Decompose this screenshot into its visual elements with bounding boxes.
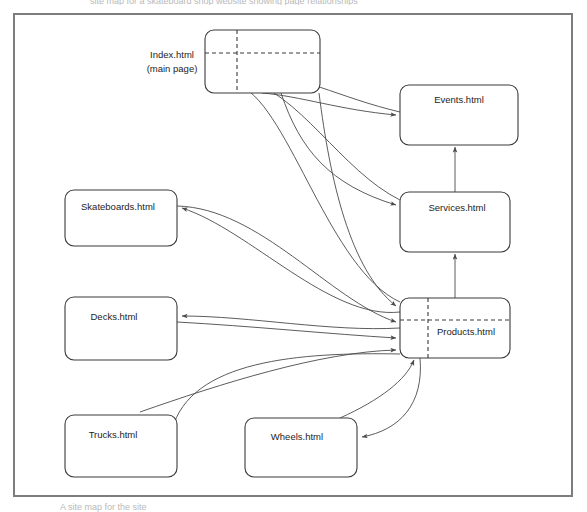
edge-services-to-index [241,78,400,200]
node-index-box[interactable] [205,30,320,93]
node-services-label: Services.html [428,202,485,213]
edge-products-to-skateboards [182,208,400,313]
edge-products-to-index [241,86,400,302]
node-skateboards-label: Skateboards.html [81,201,155,212]
node-skateboards[interactable]: Skateboards.html [65,190,177,246]
edge-products-to-wheels [362,358,420,437]
node-trucks-label: Trucks.html [89,429,138,440]
node-decks-label: Decks.html [91,311,138,322]
edge-products-to-decks [182,316,400,329]
node-index-label: Index.html [150,49,194,60]
node-events-label: Events.html [434,94,484,105]
node-events[interactable]: Events.html [400,85,518,145]
edge-trucks-to-products [140,350,396,412]
node-trucks[interactable]: Trucks.html [65,415,177,477]
node-index-sublabel: (main page) [147,63,198,74]
edge-decks-to-products [177,322,396,338]
site-map-diagram: Index.html (main page) Events.html Servi… [0,0,587,512]
node-services[interactable]: Services.html [400,192,510,252]
cropped-caption-text-bottom: A site map for the site [60,502,147,512]
node-wheels-label: Wheels.html [271,431,323,442]
node-index[interactable]: Index.html (main page) [147,30,320,93]
edge-index-to-services [281,93,396,205]
node-products[interactable]: Products.html [400,298,510,358]
node-products-label: Products.html [437,326,495,337]
diagram-stage: site map for a skateboard shop website s… [0,0,587,512]
node-decks[interactable]: Decks.html [65,297,177,360]
node-skateboards-box[interactable] [65,190,177,246]
node-decks-box[interactable] [65,297,177,360]
node-trucks-box[interactable] [65,415,177,477]
node-wheels[interactable]: Wheels.html [245,418,357,477]
edge-index-to-products [319,93,396,306]
edge-wheels-to-products [340,360,414,418]
node-wheels-box[interactable] [245,418,357,477]
